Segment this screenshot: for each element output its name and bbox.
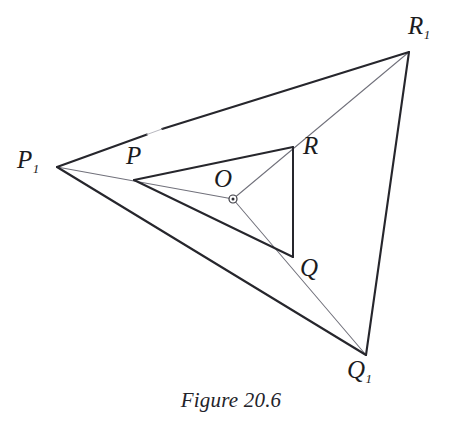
vertex-label-R-letter: R <box>303 132 318 159</box>
edge-P1-R1-part-b <box>162 52 409 129</box>
edge-R1-Q1 <box>366 52 409 355</box>
vertex-label-Q-letter: Q <box>300 254 318 281</box>
vertex-label-Q: Q <box>300 255 318 280</box>
vertex-label-P1: P1 <box>17 147 39 172</box>
geometry-diagram <box>0 0 462 424</box>
vertex-label-O-letter: O <box>214 165 232 192</box>
vertex-label-R1: R1 <box>408 13 430 38</box>
vertex-label-O: O <box>214 166 232 191</box>
inner-triangle <box>134 147 293 257</box>
ray-O-to-R1 <box>233 52 409 199</box>
vertex-label-P-letter: P <box>126 142 141 169</box>
figure-20-6: P1 P O R Q R1 Q1 Figure 20.6 <box>0 0 462 424</box>
center-point-O-marker <box>229 195 237 203</box>
vertex-label-Q1: Q1 <box>347 357 372 382</box>
figure-caption: Figure 20.6 <box>0 388 462 413</box>
vertex-label-P1-subscript: 1 <box>33 161 40 176</box>
vertex-label-R: R <box>303 133 318 158</box>
vertex-label-P: P <box>126 143 141 168</box>
edge-P1-R1-gap-hint <box>147 129 162 135</box>
vertex-label-P1-letter: P <box>17 146 32 173</box>
vertex-label-Q1-letter: Q <box>347 356 365 383</box>
vertex-label-R1-letter: R <box>408 12 423 39</box>
center-point-O-dot <box>232 198 235 201</box>
vertex-label-R1-subscript: 1 <box>424 27 431 42</box>
vertex-label-Q1-subscript: 1 <box>366 371 373 386</box>
